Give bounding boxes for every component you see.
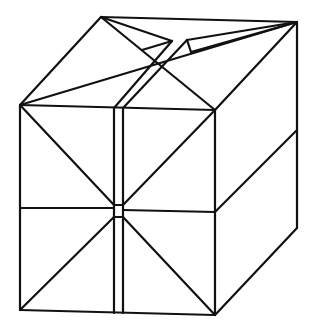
outline-line [20,105,215,110]
cube-diagram [0,0,318,334]
front-face-folds-line [123,217,215,315]
front-face-folds-line [20,105,114,205]
front-face-folds-line [20,217,114,310]
front-face-folds-line [123,110,215,205]
outline-line [215,228,297,315]
front-face-folds [20,105,215,315]
top-face-folds-line [187,40,191,52]
right-face-folds-line [215,130,297,212]
top-face-folds-line [123,40,187,108]
front-face-folds-line [123,210,215,212]
outline-line [20,310,215,315]
outline-line [101,17,297,22]
right-face-folds [215,130,297,212]
top-face-folds [20,17,297,110]
top-face-folds-line [101,17,172,41]
